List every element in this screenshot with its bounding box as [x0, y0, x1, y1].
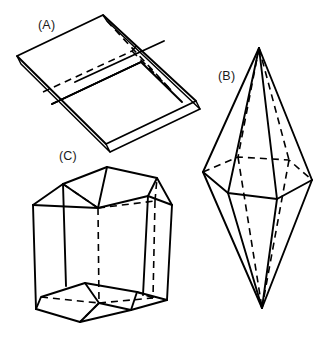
crystal-forms-canvas: (A) (B)	[0, 0, 333, 353]
crystal-forms-diagram: (A) (B)	[0, 0, 333, 353]
figure-b-label: (B)	[218, 69, 235, 83]
figure-a-label: (A)	[38, 18, 55, 32]
figure-c-label: (C)	[59, 149, 77, 163]
